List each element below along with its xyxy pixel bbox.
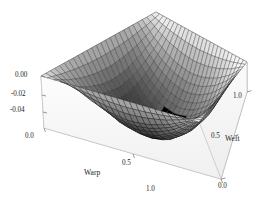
x-tick-label-2: 1.0 bbox=[146, 186, 155, 193]
x-axis-title: Warp bbox=[84, 169, 100, 177]
z-tick-label-2: -0.04 bbox=[10, 107, 24, 114]
plot-canvas bbox=[0, 0, 258, 205]
y-axis-title: Weft bbox=[225, 135, 240, 143]
surface-plot-figure: 0.00 -0.02 -0.04 0.0 0.5 1.0 Warp 0.0 0.… bbox=[0, 0, 258, 205]
y-tick-label-2: 1.0 bbox=[233, 93, 242, 100]
x-tick-label-1: 0.5 bbox=[122, 160, 131, 167]
y-tick-label-0: 0.0 bbox=[218, 183, 227, 190]
z-tick-label-0: 0.00 bbox=[15, 72, 27, 79]
z-tick-label-1: -0.02 bbox=[11, 91, 25, 98]
y-tick-label-1: 0.5 bbox=[211, 133, 220, 140]
x-tick-label-0: 0.0 bbox=[25, 133, 34, 140]
